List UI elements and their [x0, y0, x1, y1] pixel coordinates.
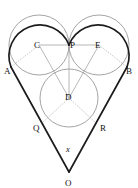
label-Q: Q	[33, 123, 40, 133]
label-P: P	[70, 40, 75, 50]
geometry-canvas: A B C D E P Q R O x	[0, 0, 138, 188]
label-E: E	[95, 40, 101, 50]
geometry-figure: A B C D E P Q R O x	[0, 0, 138, 188]
label-D: D	[65, 92, 72, 102]
line-E-D	[69, 45, 99, 98]
radius-D-R-line	[69, 98, 97, 124]
label-angle-x: x	[65, 144, 70, 154]
label-B: B	[126, 66, 132, 76]
label-C: C	[34, 40, 40, 50]
label-R: R	[100, 123, 106, 133]
line-C-D	[39, 45, 69, 98]
label-O: O	[65, 178, 72, 188]
label-A: A	[4, 66, 11, 76]
